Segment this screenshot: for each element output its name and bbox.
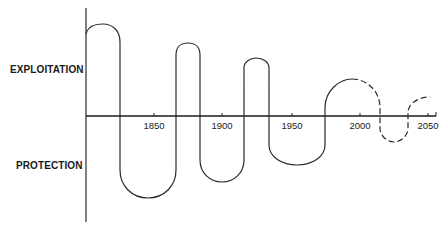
exploitation-label: EXPLOITATION: [10, 64, 84, 75]
tick-label-2050: 2050: [417, 120, 438, 131]
chart-canvas: [0, 0, 440, 232]
protection-label: PROTECTION: [16, 160, 83, 171]
tick-label-2000: 2000: [349, 120, 370, 131]
tick-label-1900: 1900: [211, 120, 232, 131]
history-curve-solid: [86, 24, 352, 198]
tick-label-1950: 1950: [281, 120, 302, 131]
projection-curve-dashed: [352, 79, 430, 142]
tick-label-1850: 1850: [143, 120, 164, 131]
